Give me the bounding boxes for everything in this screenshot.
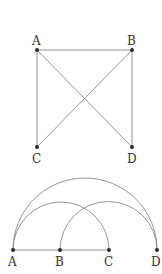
graph1-label-c: C — [32, 152, 41, 166]
graph1-point-d — [130, 145, 134, 149]
graph2-point-c — [107, 248, 111, 252]
graph2-point-d — [155, 248, 159, 252]
graph2-point-a — [11, 248, 15, 252]
graph2-label-c: C — [104, 255, 113, 269]
graph2-point-b — [58, 248, 62, 252]
graph-arc-diagram: ABCD — [7, 178, 161, 269]
graph1-label-b: B — [127, 34, 136, 48]
graph1-label-d: D — [127, 152, 137, 166]
graph1-point-b — [130, 48, 134, 52]
graph-square-with-diagonals: ABCD — [31, 34, 137, 166]
diagram-canvas: ABCD ABCD — [0, 0, 162, 274]
graph1-label-a: A — [31, 34, 41, 48]
graph2-label-b: B — [55, 255, 64, 269]
arc-a-d — [13, 178, 157, 250]
arc-a-c — [13, 202, 109, 250]
graph1-point-c — [35, 145, 39, 149]
graph1-point-a — [35, 48, 39, 52]
graph2-label-d: D — [151, 255, 161, 269]
graph2-label-a: A — [7, 255, 17, 269]
